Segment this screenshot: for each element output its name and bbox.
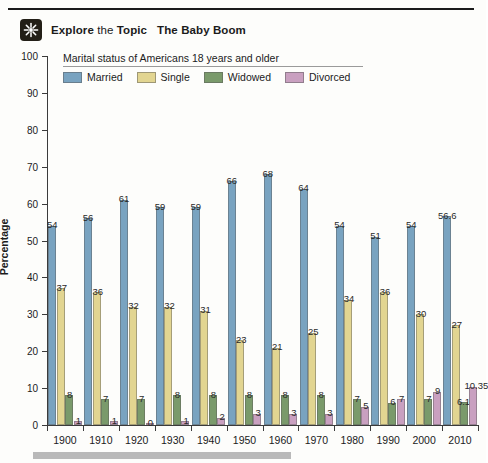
starburst-icon <box>20 19 42 41</box>
y-axis-tick <box>42 277 47 278</box>
bar-divorced[interactable]: 5 <box>361 407 369 425</box>
bar-value-label: 8 <box>247 390 252 400</box>
x-axis-tick <box>263 425 264 431</box>
bar-married[interactable]: 59 <box>156 207 164 425</box>
bar-married[interactable]: 56 <box>84 218 92 425</box>
bar-married[interactable]: 51 <box>371 237 379 425</box>
bar-single[interactable]: 36 <box>93 292 101 425</box>
y-axis-tick <box>42 425 47 426</box>
bar-married[interactable]: 61 <box>120 200 128 425</box>
y-axis-label: 100 <box>21 51 38 62</box>
bar-married[interactable]: 64 <box>300 189 308 425</box>
bar-single[interactable]: 31 <box>200 311 208 425</box>
bar-value-label: 32 <box>164 301 175 311</box>
bar-single[interactable]: 36 <box>380 292 388 425</box>
x-axis-label: 1940 <box>197 434 220 446</box>
bar-married[interactable]: 68 <box>264 174 272 425</box>
bar-single[interactable]: 27 <box>452 325 460 425</box>
bar-group: 682183 <box>264 56 298 425</box>
bar-married[interactable]: 54 <box>48 226 56 425</box>
bar-widowed[interactable]: 8 <box>281 395 289 425</box>
bar-single[interactable]: 30 <box>416 314 424 425</box>
bar-divorced[interactable]: 0 <box>146 423 154 425</box>
y-axis-tick <box>42 93 47 94</box>
legend-item-married[interactable]: Married <box>63 71 123 83</box>
bar-widowed[interactable]: 8 <box>65 395 73 425</box>
bar-divorced[interactable]: 2 <box>217 418 225 425</box>
x-axis-label: 1970 <box>305 434 328 446</box>
legend-item-widowed[interactable]: Widowed <box>204 71 271 83</box>
bar-divorced[interactable]: 7 <box>397 399 405 425</box>
y-axis-label: 20 <box>27 346 38 357</box>
bar-divorced[interactable]: 3 <box>253 414 261 425</box>
bar-widowed[interactable]: 8 <box>245 395 253 425</box>
the-label: the <box>94 24 117 36</box>
bar-divorced[interactable]: 10.35 <box>469 387 477 425</box>
y-axis-label: 30 <box>27 309 38 320</box>
bar-divorced[interactable]: 1 <box>74 421 82 425</box>
legend-label: Widowed <box>228 71 271 83</box>
bar-value-label: 1 <box>76 416 81 426</box>
bar-married[interactable]: 56.6 <box>443 216 451 425</box>
bar-widowed[interactable]: 7 <box>101 399 109 425</box>
bar-value-label: 7 <box>399 394 404 404</box>
plot-area: 5437815636716132705932815931826623836821… <box>47 56 478 425</box>
bar-widowed[interactable]: 8 <box>317 395 325 425</box>
bar-widowed[interactable]: 6 <box>388 403 396 425</box>
y-axis-tick <box>42 351 47 352</box>
x-axis-label: 1990 <box>377 434 400 446</box>
bar-divorced[interactable]: 1 <box>181 421 189 425</box>
bar-single[interactable]: 23 <box>236 340 244 425</box>
y-axis-tick <box>42 167 47 168</box>
bar-value-label: 56.6 <box>438 211 457 221</box>
bar-group: 593182 <box>192 56 226 425</box>
x-axis-label: 1930 <box>161 434 184 446</box>
legend-items: MarriedSingleWidowedDivorced <box>63 71 363 83</box>
x-axis-label: 1920 <box>125 434 148 446</box>
y-axis-label: 70 <box>27 161 38 172</box>
bar-widowed[interactable]: 7 <box>353 399 361 425</box>
bar-value-label: 8 <box>175 390 180 400</box>
bar-widowed[interactable]: 7 <box>137 399 145 425</box>
bar-value-label: 0 <box>148 418 153 428</box>
bar-single[interactable]: 25 <box>308 333 316 425</box>
bar-widowed[interactable]: 8 <box>209 395 217 425</box>
bar-single[interactable]: 32 <box>164 307 172 425</box>
bar-value-label: 25 <box>308 327 319 337</box>
bar-value-label: 6 <box>390 397 395 407</box>
bar-group: 613270 <box>120 56 154 425</box>
bar-married[interactable]: 54 <box>336 226 344 425</box>
bar-single[interactable]: 34 <box>344 300 352 425</box>
x-axis-tick <box>334 425 335 431</box>
bar-divorced[interactable]: 1 <box>110 421 118 425</box>
bar-divorced[interactable]: 3 <box>289 414 297 425</box>
bar-married[interactable]: 66 <box>228 181 236 425</box>
bar-widowed[interactable]: 8 <box>173 395 181 425</box>
x-axis-label: 2000 <box>412 434 435 446</box>
bar-divorced[interactable]: 9 <box>433 392 441 425</box>
bar-married[interactable]: 59 <box>192 207 200 425</box>
bar-value-label: 34 <box>344 294 355 304</box>
bar-value-label: 5 <box>363 401 368 411</box>
legend-swatch-single <box>137 72 156 83</box>
bar-group: 593281 <box>156 56 190 425</box>
bar-value-label: 27 <box>452 320 463 330</box>
bar-single[interactable]: 37 <box>57 288 65 425</box>
bar-divorced[interactable]: 3 <box>325 414 333 425</box>
bar-value-label: 30 <box>416 309 427 319</box>
legend-swatch-widowed <box>204 72 223 83</box>
bar-value-label: 59 <box>191 202 202 212</box>
bar-widowed[interactable]: 7 <box>424 399 432 425</box>
bar-value-label: 3 <box>291 408 296 418</box>
bar-value-label: 7 <box>139 394 144 404</box>
bar-value-label: 9 <box>435 386 440 396</box>
legend-item-single[interactable]: Single <box>137 71 190 83</box>
bar-single[interactable]: 32 <box>129 307 137 425</box>
legend-item-divorced[interactable]: Divorced <box>285 71 350 83</box>
bar-value-label: 54 <box>47 220 58 230</box>
bar-single[interactable]: 21 <box>272 348 280 425</box>
bar-married[interactable]: 54 <box>407 226 415 425</box>
bar-group: 543475 <box>336 56 370 425</box>
bar-widowed[interactable]: 6.15 <box>460 402 468 425</box>
scrollbar-thumb[interactable] <box>33 452 291 459</box>
